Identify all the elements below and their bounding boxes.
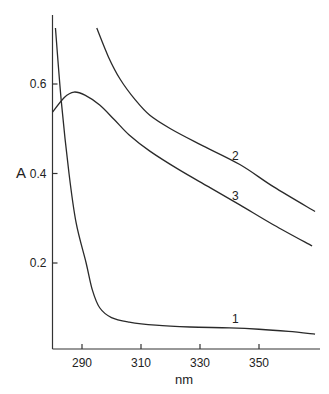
y-tick-label: 0.2 <box>30 256 47 270</box>
labels-group: 123 <box>232 149 239 326</box>
x-axis-label: nm <box>175 372 193 387</box>
series-group <box>53 28 316 334</box>
curve-label-3: 3 <box>232 189 239 203</box>
y-tick-label: 0.4 <box>30 167 47 181</box>
y-tick-label: 0.6 <box>30 77 47 91</box>
absorbance-spectrum-chart: 2903103303500.20.40.6nmA 123 <box>0 0 329 394</box>
x-tick-label: 330 <box>190 356 210 370</box>
curve-2 <box>97 28 315 211</box>
x-tick-label: 350 <box>249 356 269 370</box>
x-tick-label: 310 <box>131 356 151 370</box>
chart-svg: 2903103303500.20.40.6nmA 123 <box>0 0 329 394</box>
curve-label-1: 1 <box>232 312 239 326</box>
axes: 2903103303500.20.40.6nmA <box>16 15 320 387</box>
curve-label-2: 2 <box>232 149 239 163</box>
curve-1 <box>55 28 315 334</box>
y-axis-label: A <box>16 164 26 181</box>
x-tick-label: 290 <box>72 356 92 370</box>
curve-3 <box>53 92 313 246</box>
